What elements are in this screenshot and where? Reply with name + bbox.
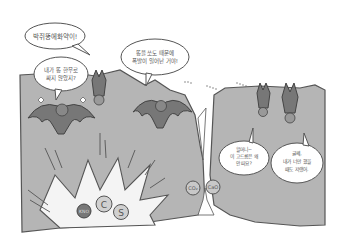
molecule-s: S (114, 205, 129, 220)
svg-text:폭발이 일어난 거야!: 폭발이 일어난 거야! (132, 57, 178, 65)
svg-text:할머니~: 할머니~ (236, 146, 252, 153)
svg-text:박쥐똥에화약이!: 박쥐똥에화약이! (33, 32, 78, 41)
svg-text:KNO: KNO (79, 209, 89, 214)
svg-text:똥을 쏘도 때문에: 똥을 쏘도 때문에 (136, 49, 175, 57)
svg-text:S: S (118, 208, 124, 218)
svg-text:이 고드름은 왜: 이 고드름은 왜 (230, 153, 257, 160)
speech-bubble-gunpowder: 박쥐똥에화약이! (25, 23, 90, 55)
svg-text:CaO: CaO (208, 184, 219, 190)
molecule-co2: CO₂ (186, 181, 200, 195)
svg-text:C: C (101, 200, 107, 210)
molecule-c: C (96, 196, 112, 212)
svg-text:내가 너만 했을: 내가 너만 했을 (283, 158, 311, 165)
svg-text:글쎄,: 글쎄, (292, 150, 302, 157)
svg-text:때도 저랬어.: 때도 저랬어. (285, 166, 308, 173)
cartoon-scene: KNO C S CO₂ CaO (0, 0, 342, 252)
svg-text:싸지 않았지?: 싸지 않았지? (46, 74, 76, 82)
svg-text:CO₂: CO₂ (188, 185, 197, 191)
svg-text:안 떠요?: 안 떠요? (236, 160, 253, 167)
molecule-kno: KNO (77, 204, 91, 218)
svg-text:내가 똥 한무로: 내가 똥 한무로 (44, 66, 78, 74)
molecule-cao: CaO (206, 180, 220, 194)
